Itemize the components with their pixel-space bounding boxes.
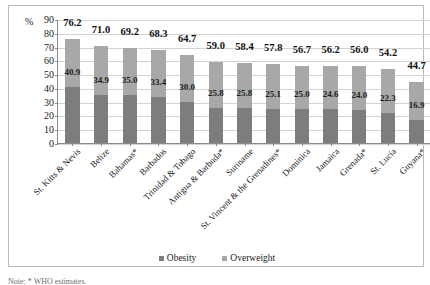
bar-column[interactable]: 56.725.0 [295, 20, 309, 143]
bar-column[interactable]: 56.024.0 [352, 20, 366, 143]
bar-obesity[interactable] [323, 109, 337, 143]
bar-value-obesity: 33.4 [151, 77, 167, 87]
x-axis-label: Bahamas* [107, 147, 140, 180]
bar-value-obesity: 25.1 [265, 89, 281, 99]
bar-value-obesity: 24.6 [323, 89, 339, 99]
chart-frame: % 9080706050403020100 76.240.971.034.969… [8, 5, 424, 267]
x-axis-label: Dominica [281, 147, 312, 178]
x-axis-tick-mark [417, 143, 418, 146]
figure-container: % 9080706050403020100 76.240.971.034.969… [0, 0, 430, 285]
bar-column[interactable]: 71.034.9 [94, 20, 108, 143]
bar-value-obesity: 40.9 [64, 67, 80, 77]
bar-obesity[interactable] [94, 95, 108, 143]
legend-item[interactable]: Overweight [222, 253, 275, 263]
bar-column[interactable]: 69.235.0 [123, 20, 137, 143]
bar-value-overweight: 59.0 [207, 40, 225, 51]
bar-obesity[interactable] [123, 95, 137, 143]
bar-value-overweight: 71.0 [92, 24, 110, 35]
legend-label: Obesity [167, 253, 197, 263]
bar-value-obesity: 22.3 [380, 93, 396, 103]
bar-value-obesity: 35.0 [122, 75, 138, 85]
bar-value-obesity: 25.0 [294, 89, 310, 99]
y-axis-tick-mark [55, 89, 58, 90]
bar-column[interactable]: 76.240.9 [65, 20, 79, 143]
y-axis-tick-label: 0 [32, 139, 54, 149]
y-axis-tick-mark [55, 48, 58, 49]
bar-obesity[interactable] [151, 97, 165, 143]
legend-swatch-obesity [159, 256, 164, 261]
y-axis-tick-label: 40 [32, 84, 54, 94]
y-axis-tick-label: 80 [32, 29, 54, 39]
x-axis-tick-mark [359, 143, 360, 146]
bar-obesity[interactable] [266, 109, 280, 143]
x-axis-tick-mark [72, 143, 73, 146]
y-axis-tick-label: 20 [32, 111, 54, 121]
bar-column[interactable]: 59.025.8 [209, 20, 223, 143]
bar-obesity[interactable] [409, 120, 423, 143]
y-axis-tick-label: 70 [32, 43, 54, 53]
plot-area: 9080706050403020100 76.240.971.034.969.2… [57, 20, 430, 144]
bar-value-overweight: 56.2 [321, 44, 339, 55]
y-axis-tick-mark [55, 103, 58, 104]
bar-column[interactable]: 56.224.6 [323, 20, 337, 143]
y-axis-tick-label: 10 [32, 125, 54, 135]
bar-column[interactable]: 44.716.9 [409, 20, 423, 143]
bar-obesity[interactable] [381, 113, 395, 143]
x-axis-label: Belize [89, 147, 112, 170]
chart-legend: ObesityOverweight [9, 253, 425, 263]
x-axis-tick-mark [158, 143, 159, 146]
bar-column[interactable]: 57.825.1 [266, 20, 280, 143]
x-axis-label: Antigua & Barbuda* [166, 147, 226, 207]
bar-obesity[interactable] [65, 87, 79, 143]
chart-footnote: Note: * WHO estimates. [8, 277, 87, 285]
legend-label: Overweight [230, 253, 275, 263]
x-axis-label: Grenada* [339, 147, 370, 178]
x-axis-tick-mark [101, 143, 102, 146]
bar-value-overweight: 56.7 [293, 44, 311, 55]
bar-obesity[interactable] [295, 109, 309, 143]
y-axis-tick-label: 90 [32, 15, 54, 25]
bar-obesity[interactable] [180, 102, 194, 143]
y-axis-tick-mark [55, 20, 58, 21]
y-axis-tick-mark [55, 116, 58, 117]
bar-value-overweight: 44.7 [407, 60, 425, 71]
bar-value-obesity: 30.0 [179, 82, 195, 92]
x-axis-tick-mark [273, 143, 274, 146]
legend-swatch-overweight [222, 256, 227, 261]
bar-value-overweight: 58.4 [235, 41, 253, 52]
x-axis-label: Guyana* [398, 147, 427, 176]
bar-value-overweight: 57.8 [264, 42, 282, 53]
bar-column[interactable]: 64.730.0 [180, 20, 194, 143]
bar-value-obesity: 34.9 [93, 75, 109, 85]
legend-item[interactable]: Obesity [159, 253, 197, 263]
bar-value-obesity: 25.8 [237, 88, 253, 98]
bar-obesity[interactable] [237, 108, 251, 143]
bar-value-overweight: 68.3 [149, 28, 167, 39]
x-axis-label: St. Lucia [369, 147, 398, 176]
y-axis-tick-mark [55, 75, 58, 76]
bar-value-overweight: 76.2 [63, 17, 81, 28]
bar-value-overweight: 69.2 [121, 26, 139, 37]
bar-column[interactable]: 68.333.4 [151, 20, 165, 143]
bar-obesity[interactable] [209, 108, 223, 143]
bar-value-obesity: 16.9 [409, 100, 425, 110]
y-axis-tick-mark [55, 144, 58, 145]
x-axis-tick-mark [331, 143, 332, 146]
bar-value-overweight: 54.2 [379, 47, 397, 58]
x-axis-tick-mark [216, 143, 217, 146]
bar-value-overweight: 56.0 [350, 44, 368, 55]
y-axis-tick-label: 50 [32, 70, 54, 80]
y-axis-tick-mark [55, 34, 58, 35]
bar-value-obesity: 25.8 [208, 88, 224, 98]
bar-value-overweight: 64.7 [178, 33, 196, 44]
y-axis-tick-label: 30 [32, 98, 54, 108]
x-axis-tick-mark [388, 143, 389, 146]
x-axis-tick-mark [302, 143, 303, 146]
bar-column[interactable]: 54.222.3 [381, 20, 395, 143]
x-axis-label: St. Kitts & Nevis [32, 147, 82, 197]
bar-obesity[interactable] [352, 110, 366, 143]
x-axis-tick-mark [245, 143, 246, 146]
y-axis-tick-mark [55, 130, 58, 131]
bar-column[interactable]: 58.425.8 [237, 20, 251, 143]
y-axis-tick-mark [55, 61, 58, 62]
